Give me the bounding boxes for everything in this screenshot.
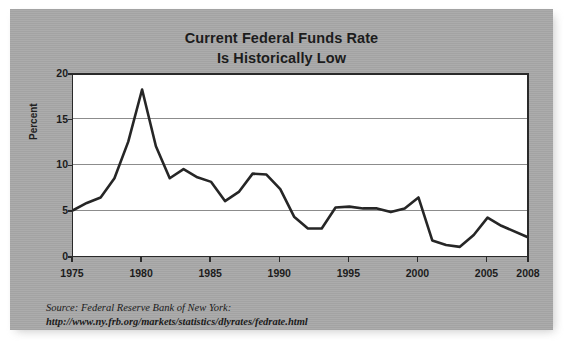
x-tick-mark-2008 [527, 257, 528, 262]
x-tick-label-2000: 2000 [395, 267, 439, 279]
chart-figure: Current Federal Funds Rate Is Historical… [0, 0, 578, 343]
y-tick-label-0: 0 [40, 251, 68, 261]
x-tick-mark-1975 [71, 257, 72, 262]
chart-panel: Current Federal Funds Rate Is Historical… [10, 9, 553, 330]
plot-area [72, 73, 529, 257]
x-tick-label-2005: 2005 [465, 267, 509, 279]
source-url: http://www.ny.frb.org/markets/statistics… [46, 315, 308, 329]
x-tick-mark-1995 [348, 257, 349, 262]
x-tick-label-1990: 1990 [257, 267, 301, 279]
chart-plot-svg [73, 73, 529, 256]
chart-title: Current Federal Funds Rate Is Historical… [10, 28, 553, 68]
y-tick-label-20: 20 [40, 68, 68, 78]
y-tick-label-15: 15 [40, 114, 68, 124]
y-tick-label-5: 5 [40, 205, 68, 215]
chart-source: Source: Federal Reserve Bank of New York… [46, 301, 308, 329]
source-label: Source: Federal Reserve Bank of New York… [46, 301, 308, 315]
chart-title-line-1: Current Federal Funds Rate [10, 28, 553, 48]
chart-title-line-2: Is Historically Low [10, 48, 553, 68]
x-tick-label-1980: 1980 [119, 267, 163, 279]
x-tick-label-2008: 2008 [506, 267, 550, 279]
x-tick-mark-2005 [486, 257, 487, 262]
x-tick-mark-1980 [140, 257, 141, 262]
x-tick-label-1975: 1975 [50, 267, 94, 279]
data-series-line [73, 89, 529, 246]
y-tick-label-10: 10 [40, 159, 68, 169]
x-tick-label-1985: 1985 [188, 267, 232, 279]
x-tick-label-1995: 1995 [326, 267, 370, 279]
x-tick-mark-1985 [209, 257, 210, 262]
y-axis-ticks: 20 15 10 5 0 [38, 9, 68, 343]
x-tick-mark-1990 [279, 257, 280, 262]
x-tick-mark-2000 [417, 257, 418, 262]
